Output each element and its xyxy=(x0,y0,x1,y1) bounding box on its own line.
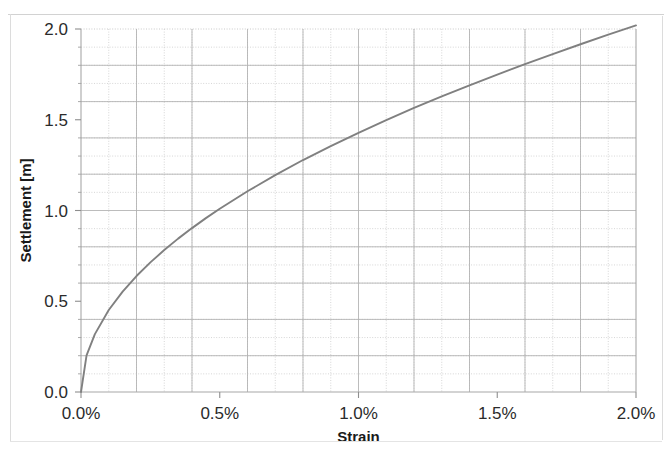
x-tick-label: 1.5% xyxy=(478,404,517,423)
y-tick-label: 1.0 xyxy=(44,202,68,221)
axis-ticks xyxy=(75,29,636,398)
settlement-strain-chart: 0.00.51.01.52.00.0%0.5%1.0%1.5%2.0% Sett… xyxy=(0,0,672,456)
y-axis-title: Settlement [m] xyxy=(17,158,34,262)
x-axis-title: Strain xyxy=(337,428,380,445)
x-tick-label: 1.0% xyxy=(339,404,378,423)
x-tick-label: 2.0% xyxy=(617,404,656,423)
chart-figure: 0.00.51.01.52.00.0%0.5%1.0%1.5%2.0% Sett… xyxy=(0,0,672,456)
scan-border-left xyxy=(10,14,11,442)
scan-border-bottom xyxy=(10,441,662,442)
y-tick-label: 1.5 xyxy=(44,111,68,130)
y-tick-label: 0.5 xyxy=(44,292,68,311)
axis-tick-labels: 0.00.51.01.52.00.0%0.5%1.0%1.5%2.0% xyxy=(44,20,655,423)
y-tick-label: 0.0 xyxy=(44,383,68,402)
y-tick-label: 2.0 xyxy=(44,20,68,39)
x-tick-label: 0.5% xyxy=(200,404,239,423)
scan-border-top xyxy=(8,14,664,15)
scan-border-right xyxy=(662,16,663,440)
x-tick-label: 0.0% xyxy=(62,404,101,423)
axis-titles: Settlement [m]Strain xyxy=(17,158,380,445)
